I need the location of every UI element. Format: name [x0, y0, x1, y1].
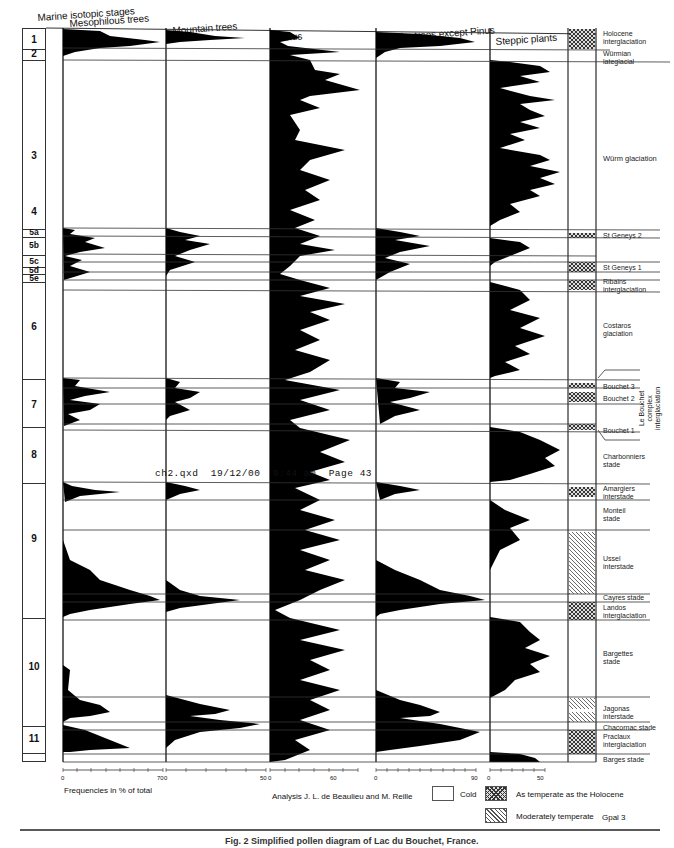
period-wurm-glaciation: Würm glaciation	[603, 155, 657, 163]
analysis-credit: Analysis J. L. de Beaulieu and M. Reille	[272, 792, 413, 801]
period-wurmian-lateglacial: Würmianlateglacial	[603, 50, 634, 66]
axis2-max: 50	[260, 775, 267, 781]
period-monteil: Monteilstade	[603, 507, 626, 523]
legend-holocene-swatch	[485, 786, 507, 801]
period-ussel: Usselinterstade	[603, 555, 634, 571]
period-barges: Barges stade	[603, 756, 644, 764]
period-cayres: Cayres stade	[603, 594, 644, 602]
period-bouchet-3: Bouchet 3	[603, 383, 635, 391]
pollen-curves	[0, 0, 674, 848]
le-bouchet-group-label: Le Bouchet complex interglaciation	[638, 387, 662, 430]
axis5-min: 0	[487, 775, 490, 781]
period-praclaux: Praclauxinterglaciation	[603, 733, 646, 749]
pinus-curve	[270, 28, 360, 762]
period-holocene: Holoceneinterglaciation	[603, 30, 646, 46]
legend-holocene-label: As temperate as the Holocene	[516, 790, 624, 799]
frequencies-label: Frequencies in % of total	[64, 786, 152, 795]
period-ribains: Ribainsinterglaciation	[603, 278, 646, 294]
axis4-max: 90	[471, 775, 478, 781]
period-bouchet-2: Bouchet 2	[603, 395, 635, 403]
steppic-plants-curve	[490, 28, 560, 762]
period-amargiers: Amargiersinterstade	[603, 485, 635, 501]
mountain-trees-curve	[166, 28, 260, 762]
period-bouchet-1: Bouchet 1	[603, 427, 635, 435]
legend-moderate-swatch	[485, 808, 507, 823]
period-jagonas: Jagonasinterstade	[603, 705, 634, 721]
boundary-lines	[63, 48, 670, 762]
climate-bar	[568, 28, 596, 762]
figure-id: Gpal 3	[602, 813, 626, 822]
print-stamp: ch2.qxd 19/12/00 9:44 am Page 43	[155, 468, 372, 479]
period-st-geneys-2: St Geneys 2	[603, 232, 642, 240]
legend-cold-label: Cold	[460, 790, 476, 799]
legend-moderate-label: Moderately temperate	[516, 812, 594, 821]
all-trees-except-pinus-curve	[376, 28, 485, 762]
period-charbonniers: Charbonniersstade	[603, 453, 645, 469]
axis1-min: 0	[61, 775, 64, 781]
axis5-max: 50	[537, 775, 544, 781]
period-st-geneys-1: St Geneys 1	[603, 264, 642, 272]
figure-caption: Fig. 2 Simplified pollen diagram of Lac …	[225, 836, 479, 846]
axis3-max: 60	[330, 775, 337, 781]
axis3-min: 0	[268, 775, 271, 781]
period-chacornac: Chacornac stade	[603, 724, 656, 732]
mesophilous-curve	[63, 28, 160, 762]
period-bargettes: Bargettesstade	[603, 650, 633, 666]
axis4-min: 0	[374, 775, 377, 781]
axis2-min: 0	[164, 775, 167, 781]
period-costaros: Costarosglaciation	[603, 322, 633, 338]
legend-cold-swatch	[432, 786, 454, 801]
axis1-max: 70	[157, 775, 164, 781]
period-landos: Landosinterglaciation	[603, 604, 646, 620]
